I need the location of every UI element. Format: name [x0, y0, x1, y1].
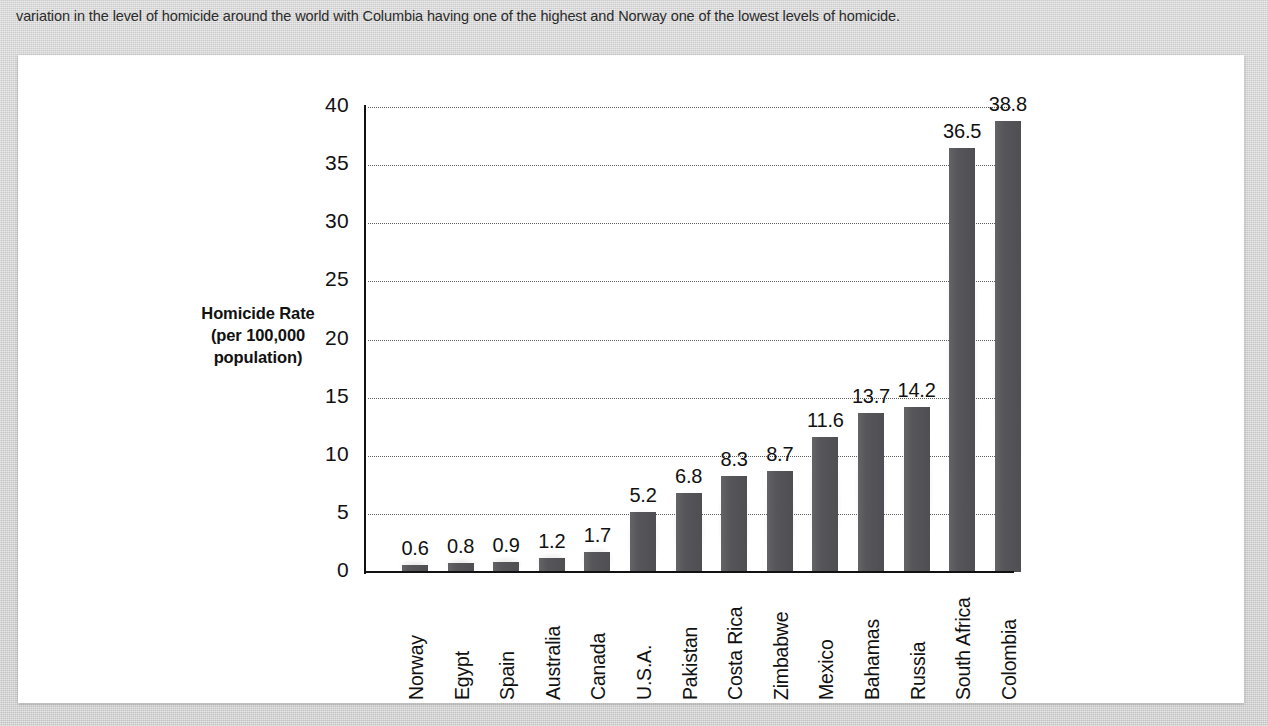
x-tick-label: Colombia [998, 619, 1021, 700]
bar-canada [584, 552, 610, 572]
x-tick-label: Pakistan [679, 627, 702, 700]
bar-australia [539, 558, 565, 572]
y-tick-label: 5 [299, 500, 349, 524]
bar-russia [904, 407, 930, 572]
homicide-rate-bar-chart: Homicide Rate (per 100,000 population) 0… [18, 55, 1244, 703]
y-tick-label: 0 [299, 558, 349, 582]
bar-bahamas [858, 413, 884, 572]
y-tick-label: 35 [299, 151, 349, 175]
bar-value-label: 38.8 [977, 93, 1039, 116]
x-tick-label: Norway [405, 635, 428, 700]
x-tick-label: Australia [542, 626, 565, 700]
bar-zimbabwe [767, 471, 793, 572]
x-tick-label: Canada [587, 633, 610, 700]
caption-text: variation in the level of homicide aroun… [16, 6, 1260, 26]
x-tick-label: U.S.A. [633, 645, 656, 700]
y-tick-label: 20 [299, 326, 349, 350]
bar-value-label: 8.7 [749, 443, 811, 466]
y-tick-label: 15 [299, 384, 349, 408]
figure-card: Homicide Rate (per 100,000 population) 0… [18, 55, 1244, 703]
bar-mexico [812, 437, 838, 572]
x-tick-label: Spain [496, 651, 519, 700]
y-tick-label: 40 [299, 93, 349, 117]
x-tick-label: Zimbabwe [770, 612, 793, 700]
x-tick-label: Egypt [451, 651, 474, 700]
bar-u-s-a- [630, 512, 656, 572]
y-tick-label: 25 [299, 267, 349, 291]
y-tick-label: 10 [299, 442, 349, 466]
bar-value-label: 36.5 [931, 120, 993, 143]
bar-value-label: 1.7 [566, 524, 628, 547]
bar-costa-rica [721, 476, 747, 572]
y-axis-title-line-1: Homicide Rate [168, 302, 348, 324]
bar-south-africa [949, 148, 975, 572]
x-tick-label: Bahamas [861, 619, 884, 700]
x-axis-line [364, 571, 1014, 573]
plot-area [365, 107, 1013, 572]
x-tick-label: Mexico [815, 639, 838, 700]
bar-value-label: 11.6 [794, 409, 856, 432]
x-tick-label: Costa Rica [724, 607, 747, 700]
y-tick-label: 30 [299, 209, 349, 233]
bar-value-label: 14.2 [886, 379, 948, 402]
bar-pakistan [676, 493, 702, 572]
bar-colombia [995, 121, 1021, 572]
x-tick-label: South Africa [952, 597, 975, 700]
x-tick-label: Russia [907, 642, 930, 700]
